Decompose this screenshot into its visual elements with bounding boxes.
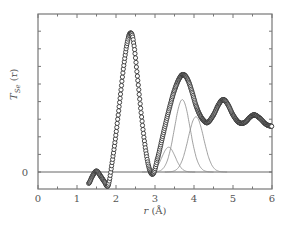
data-point	[138, 97, 142, 101]
data-point	[136, 83, 140, 87]
data-point	[120, 75, 124, 79]
data-point	[133, 48, 137, 52]
data-point	[116, 113, 120, 117]
data-point	[140, 119, 144, 123]
x-tick-labels: 0123456	[35, 193, 275, 204]
data-point	[135, 74, 139, 78]
x-tick-label: 6	[269, 193, 275, 204]
y-axis-label-arg: (r)	[8, 69, 19, 85]
plot-area: 0123456 0 r (Å)	[0, 0, 288, 227]
data-point	[139, 106, 143, 110]
data-point	[116, 117, 120, 121]
x-tick-label: 0	[35, 193, 41, 204]
data-point	[139, 111, 143, 115]
data-point	[118, 100, 122, 104]
y-tick-label-zero: 0	[22, 167, 28, 178]
data-point	[115, 125, 119, 129]
y-axis-label: TSe (r)	[8, 69, 22, 100]
x-tick-label: 1	[74, 193, 80, 204]
x-tick-label: 5	[230, 193, 236, 204]
data-point	[137, 92, 141, 96]
data-point	[133, 52, 137, 56]
data-point	[270, 124, 274, 128]
data-point	[140, 123, 144, 127]
data-point	[138, 102, 142, 106]
data-point	[118, 92, 122, 96]
x-axis-label: r (Å)	[144, 205, 167, 216]
data-point	[136, 78, 140, 82]
chart: 0123456 0 r (Å) TSe (r)	[0, 0, 288, 227]
data-point	[114, 129, 118, 133]
data-point	[119, 83, 123, 87]
data-point	[135, 70, 139, 74]
x-tick-label: 3	[152, 193, 158, 204]
y-axis-label-sub: Se	[14, 84, 22, 93]
x-tick-label: 4	[191, 193, 197, 204]
x-tick-label: 2	[113, 193, 119, 204]
data-point	[134, 65, 138, 69]
data-point	[134, 60, 138, 64]
gaussian-component	[165, 117, 227, 172]
data-point	[137, 88, 141, 92]
data-point	[117, 109, 121, 113]
data-point	[118, 96, 122, 100]
data-point	[140, 115, 144, 119]
data-point	[115, 121, 119, 125]
x-axis-label-unit: (Å)	[148, 205, 166, 216]
data-point	[117, 105, 121, 109]
data-point	[133, 56, 137, 60]
y-axis-label-main: T	[8, 93, 19, 100]
data-point	[119, 88, 123, 92]
data-point	[120, 79, 124, 83]
